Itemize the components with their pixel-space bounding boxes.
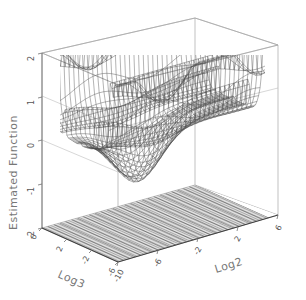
z-tick-label: 0 bbox=[27, 143, 36, 148]
z-tick-label: -1 bbox=[27, 187, 36, 195]
y-tick-label: 2 bbox=[233, 234, 243, 243]
surface-plot-figure: 2 1 0 -1 -2 Estimated Function 6 2 -2 -6… bbox=[0, 0, 306, 300]
x-axis-label: Log3 bbox=[56, 268, 87, 292]
plot-canvas: 2 1 0 -1 -2 Estimated Function 6 2 -2 -6… bbox=[0, 0, 306, 300]
x-tick-label: -2 bbox=[80, 255, 91, 266]
x-tick-label: 2 bbox=[55, 245, 65, 253]
z-axis: 2 1 0 -1 -2 bbox=[27, 53, 42, 239]
z-tick-label: 2 bbox=[27, 56, 36, 61]
z-axis-label: Estimated Function bbox=[7, 115, 20, 230]
floor-grid bbox=[42, 185, 278, 262]
z-tick-label: 1 bbox=[27, 100, 36, 105]
y-tick-label: -6 bbox=[152, 257, 164, 268]
y-tick-label: -2 bbox=[192, 245, 204, 256]
y-tick-label: 6 bbox=[274, 223, 284, 232]
y-axis-label: Log2 bbox=[213, 255, 244, 276]
